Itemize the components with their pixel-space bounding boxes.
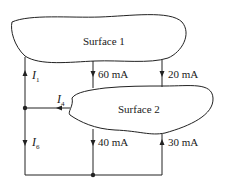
current-30ma-label: 30 mA [168, 136, 198, 148]
surface-1-label: Surface 1 [83, 35, 125, 47]
arrow-down-icon [160, 71, 165, 77]
kcl-surface-diagram: Surface 1 Surface 2 I1 I4 I6 60 mA 20 mA… [0, 0, 225, 185]
current-i4-label: I4 [56, 92, 65, 108]
junction-dot-bottom [91, 173, 95, 177]
current-40ma-label: 40 mA [98, 136, 128, 148]
current-i6-label: I6 [31, 135, 40, 151]
arrow-down-icon [91, 71, 96, 77]
arrow-down-icon [23, 140, 28, 146]
current-i1-label: I1 [31, 68, 40, 84]
surface-2-label: Surface 2 [118, 103, 160, 115]
arrow-up-icon [23, 70, 28, 76]
current-20ma-label: 20 mA [168, 68, 198, 80]
arrow-up-icon [160, 139, 165, 145]
arrow-down-icon [91, 140, 96, 146]
junction-dot-left [23, 106, 27, 110]
current-60ma-label: 60 mA [98, 68, 128, 80]
